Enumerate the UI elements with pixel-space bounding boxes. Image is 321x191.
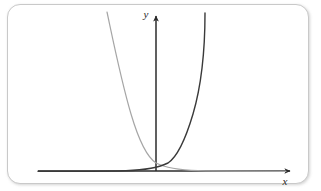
figure-root: y x [0, 0, 321, 191]
curve-exponential-growth [38, 13, 205, 171]
x-axis-label: x [282, 175, 288, 187]
plot-canvas: y x [0, 0, 321, 191]
y-axis-label: y [143, 8, 149, 20]
curve-exponential-decay [107, 12, 286, 171]
